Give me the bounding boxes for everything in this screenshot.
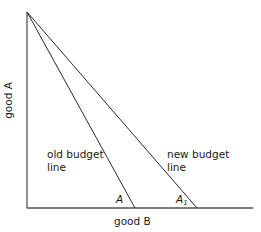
y-axis-label: good A [2, 81, 15, 121]
old-budget-line-label-1: old budget [47, 148, 104, 161]
diagram-canvas [0, 0, 261, 232]
angle-a-label: A [116, 193, 123, 206]
new-budget-line-label-1: new budget [167, 148, 229, 161]
angle-a1-label: A1 [176, 193, 188, 210]
new-budget-line-label: new budget line [167, 148, 229, 174]
old-budget-line-label-2: line [47, 161, 104, 174]
old-budget-line [27, 12, 135, 208]
new-budget-line-label-2: line [167, 161, 229, 174]
angle-a1-subscript: 1 [183, 199, 187, 207]
x-axis-label: good B [114, 215, 151, 228]
old-budget-line-label: old budget line [47, 148, 104, 174]
new-budget-line [27, 12, 197, 208]
